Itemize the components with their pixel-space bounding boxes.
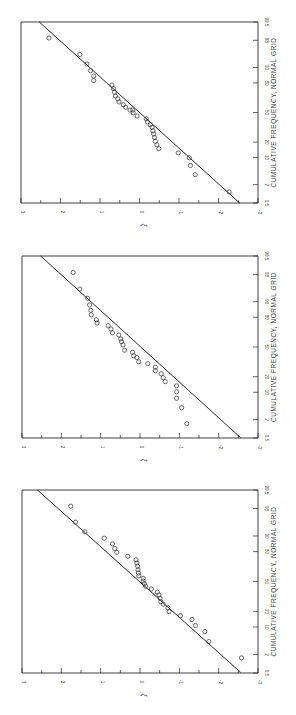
plot-2-xi-tick-label: 1 <box>100 446 105 449</box>
plot-3-data-point <box>207 639 211 643</box>
plot-2-freq-tick-label: 80 <box>264 315 269 321</box>
plot-3-xi-tick-label: -2 <box>218 680 223 684</box>
plot-1-data-point <box>188 163 192 167</box>
plot-2-data-point <box>174 396 178 400</box>
plot-3-xi-tick-label: 3 <box>21 681 26 684</box>
plot-1-data-point <box>135 114 139 118</box>
plot-1-xi-tick-label: 2 <box>60 211 65 214</box>
plot-3-freq-tick-label: 20 <box>264 609 269 615</box>
plot-3-data-point <box>113 546 117 550</box>
plot-1-xi-tick-label: -2 <box>218 210 223 214</box>
plot-3-xi-tick-label: 0 <box>139 681 144 684</box>
plot-2-data-point <box>163 380 167 384</box>
plot-1-freq-tick-label: 90 <box>264 65 269 71</box>
plot-2-data-point <box>123 348 127 352</box>
plot-2-xi-tick-label: -1 <box>178 445 183 449</box>
plot-3-freq-tick-label: 50 <box>264 579 269 585</box>
plot-1-data-point <box>176 151 180 155</box>
plot-1-xi-tick-label: 1 <box>99 211 104 214</box>
plot-2-freq-tick-label: 90 <box>264 299 269 305</box>
plot-2-freq-tick-label: 10 <box>264 390 269 396</box>
plot-3-freq-tick-label: 10 <box>264 625 269 631</box>
plot-1-data-point <box>92 74 96 78</box>
plot-2-data-point <box>174 390 178 394</box>
plot-2-data-point <box>119 337 123 341</box>
plot-2-xi-tick-label: -2 <box>218 445 223 449</box>
plot-2-data-point <box>89 308 93 312</box>
plot-2-data-point <box>180 406 184 410</box>
plot-1-data-point <box>121 103 125 107</box>
plot-1-xlabel: CUMULATIVE FREQUENCY, NORMAL GRID <box>270 38 278 188</box>
plot-2-xi-tick-label: -3 <box>257 445 262 449</box>
plot-1-reference-line <box>39 22 240 203</box>
plot-3-data-point <box>141 579 145 583</box>
plot-1-xi-tick-label: -1 <box>178 210 183 214</box>
plot-2-data-point <box>88 303 92 307</box>
plot-2-freq-tick-label: 2 <box>264 418 269 421</box>
plot-1-xi-tick-label: 3 <box>20 211 25 214</box>
plot-3-xi-tick-label: -3 <box>257 680 262 684</box>
plot-1-data-point <box>193 173 197 177</box>
plot-3-data-point <box>110 542 114 546</box>
plot-1-data-point <box>131 111 135 115</box>
plot-2-xi-tick-label: 2 <box>60 446 65 449</box>
plot-3-freq-tick-label: 80 <box>264 549 269 555</box>
plot-3-data-point <box>69 504 73 508</box>
plot-3-data-point <box>142 582 146 586</box>
plot-3-freq-tick-label: 2 <box>264 653 269 656</box>
plot-2-data-point <box>137 360 141 364</box>
plot-1-freq-tick-label: 0.5 <box>264 200 269 207</box>
plot-3-data-point <box>190 617 194 621</box>
plot-2-xi-tick-label: 3 <box>21 446 26 449</box>
plot-3-data-point <box>239 656 243 660</box>
plot-3-xlabel: CUMULATIVE FREQUENCY, NORMAL GRID <box>270 507 278 657</box>
plot-3-freq-tick-label: 90 <box>264 533 269 539</box>
plot-2-data-point <box>89 313 93 317</box>
plot-1-xi-tick-label: 0 <box>139 211 144 214</box>
plot-1-freq-tick-label: 20 <box>264 140 269 146</box>
plot-2-freq-tick-label: 98 <box>264 272 269 278</box>
plot-3-data-point <box>115 550 119 554</box>
plot-3-xi-tick-label: -1 <box>178 680 183 684</box>
plot-1-freq-tick-label: 80 <box>264 80 269 86</box>
plot-1-freq-tick-label: 98 <box>264 38 269 44</box>
plot-3-data-point <box>137 574 141 578</box>
plot-2-data-point <box>78 287 82 291</box>
plot-1-xi-tick-label: -3 <box>257 210 262 214</box>
plot-1-data-point <box>78 52 82 56</box>
plot-2-data-point <box>71 270 75 274</box>
plot-2-freq-tick-label: 50 <box>264 344 269 350</box>
plot-1-data-point <box>88 69 92 73</box>
plot-2-ylabel: ξ <box>140 458 148 462</box>
plot-2-data-point <box>185 422 189 426</box>
plot-2-freq-tick-label: 99.5 <box>264 252 269 261</box>
plot-1-data-point <box>113 94 117 98</box>
plot-2-freq-tick-label: 20 <box>264 374 269 380</box>
plot-3-freq-tick-label: 0.5 <box>264 670 269 677</box>
plot-2-xi-tick-label: 0 <box>139 446 144 449</box>
plot-1-freq-tick-label: 99.5 <box>264 18 269 27</box>
plot-2-xlabel: CUMULATIVE FREQUENCY, NORMAL GRID <box>270 272 278 422</box>
plot-3-xi-tick-label: 1 <box>100 681 105 684</box>
plot-3-data-point <box>167 610 171 614</box>
plot-2-data-point <box>110 331 114 335</box>
plot-1-data-point <box>124 105 128 109</box>
plot-2-data-point <box>174 384 178 388</box>
plot-2-freq-tick-label: 0.5 <box>264 435 269 442</box>
plot-3-data-point <box>178 614 182 618</box>
plot-3-ylabel: ξ <box>140 693 148 697</box>
plot-2-reference-line <box>40 256 240 438</box>
plot-3-data-point <box>193 623 197 627</box>
plot-3-freq-tick-label: 98 <box>264 506 269 512</box>
plot-1-data-point <box>157 147 161 151</box>
plot-1-data-point <box>47 36 51 40</box>
plot-3-data-point <box>203 629 207 633</box>
probability-plot-1: -3-2-10123ξ0.5210205080909899.5CUMULATIV… <box>0 0 296 715</box>
plot-1-freq-tick-label: 50 <box>264 110 269 116</box>
plot-1-freq-tick-label: 2 <box>264 183 269 186</box>
plot-3-freq-tick-label: 99.5 <box>264 486 269 495</box>
plot-3-xi-tick-label: 2 <box>60 681 65 684</box>
plot-3-data-point <box>149 587 153 591</box>
plot-1-freq-tick-label: 10 <box>264 155 269 161</box>
plot-3-reference-line <box>37 490 240 673</box>
